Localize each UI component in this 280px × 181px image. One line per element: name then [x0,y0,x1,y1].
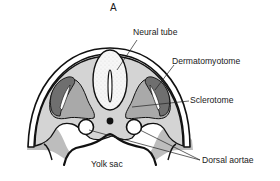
label-dorsal-aortae: Dorsal aortae [202,156,254,165]
label-dermatomyotome: Dermatomyotome [172,57,240,66]
panel-label: A [110,3,117,13]
label-neural-tube: Neural tube [133,28,177,37]
diagram-stage: A Neural tube Dermatomyotome Sclerotome … [0,0,280,181]
dorsal-aorta-right [127,120,142,135]
dorsal-aorta-left [79,120,94,135]
central-canal [108,70,112,102]
label-sclerotome: Sclerotome [190,96,233,105]
notochord [107,118,114,125]
label-yolk-sac: Yolk sac [91,160,123,169]
